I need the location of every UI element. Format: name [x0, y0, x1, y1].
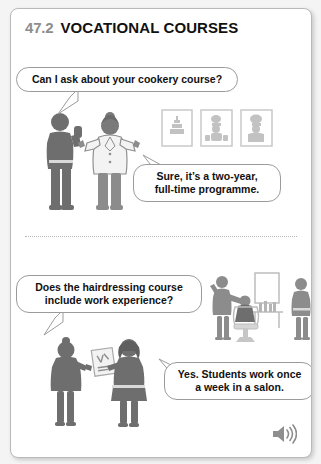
speech-bubble-answer-two: Yes. Students work once a week in a salo…	[164, 362, 312, 400]
frame-chef-portrait	[241, 110, 272, 146]
speech-text: Sure, it’s a two-year, full-time program…	[155, 170, 259, 196]
speech-line-2: a week in a salon.	[195, 381, 284, 393]
speech-line-1: Yes. Students work once	[178, 368, 302, 380]
speech-line-1: Sure, it’s a two-year,	[156, 170, 257, 182]
audio-play-button[interactable]	[271, 423, 297, 445]
speech-text: Can I ask about your cookery course?	[32, 73, 222, 86]
section-number: 47.2	[25, 19, 53, 36]
page-title: 47.2 VOCATIONAL COURSES	[25, 19, 238, 36]
frame-chef-cooking	[201, 110, 232, 146]
speech-tail-question-two	[41, 310, 73, 336]
section-title: VOCATIONAL COURSES	[60, 19, 238, 36]
section-divider	[25, 236, 297, 237]
speech-bubble-answer-one: Sure, it’s a two-year, full-time program…	[133, 164, 281, 202]
cookery-figures-illustration	[33, 109, 153, 214]
framed-cookery-pictures	[161, 106, 273, 154]
speech-line-2: include work experience?	[45, 294, 173, 306]
speech-text: Does the hairdressing course include wor…	[35, 281, 183, 307]
exercise-page-background: 47.2 VOCATIONAL COURSES	[0, 0, 321, 464]
speech-bubble-question-one: Can I ask about your cookery course?	[16, 67, 238, 92]
speech-text: Yes. Students work once a week in a salo…	[178, 368, 302, 394]
speech-bubble-question-two: Does the hairdressing course include wor…	[16, 275, 202, 313]
hair-salon-illustration	[209, 272, 312, 344]
hairdressing-figures-illustration	[43, 335, 155, 435]
speech-line-2: full-time programme.	[155, 183, 259, 195]
frame-cake	[162, 110, 192, 146]
speech-tail-question-one	[56, 89, 90, 115]
speech-line-1: Does the hairdressing course	[35, 281, 183, 293]
speaker-icon	[271, 423, 297, 445]
exercise-card: 47.2 VOCATIONAL COURSES	[10, 8, 312, 458]
